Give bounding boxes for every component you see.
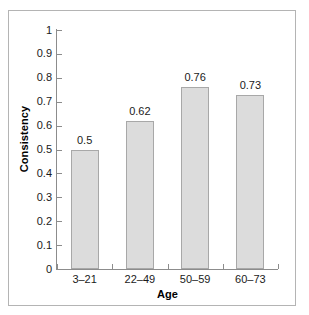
y-axis-tick-label: 0.2 — [6, 216, 52, 227]
y-axis-tick-label: 0.8 — [6, 72, 52, 83]
x-axis-category-label: 22–49 — [125, 273, 156, 285]
x-axis-category-label: 50–59 — [180, 273, 211, 285]
x-axis-tick — [278, 264, 279, 269]
bar[interactable] — [181, 87, 209, 269]
bar-value-label: 0.73 — [240, 80, 261, 91]
bar[interactable] — [236, 95, 264, 269]
plot-area: 0.50.620.760.73 — [57, 30, 277, 269]
y-axis-tick-label: 1 — [6, 25, 52, 36]
bar-value-label: 0.62 — [129, 106, 150, 117]
x-axis-tick — [168, 264, 169, 269]
figure: 00.10.20.30.40.50.60.70.80.91 Consistenc… — [0, 0, 309, 315]
bar-group: 0.76 — [181, 30, 209, 269]
x-axis-category-label: 60–73 — [235, 273, 266, 285]
bar-group: 0.5 — [71, 30, 99, 269]
bar[interactable] — [126, 121, 154, 269]
bar[interactable] — [71, 150, 99, 270]
bar-group: 0.62 — [126, 30, 154, 269]
y-axis-tick-label: 0.1 — [6, 240, 52, 251]
bar-value-label: 0.76 — [184, 72, 205, 83]
x-axis-tick — [112, 264, 113, 269]
x-axis-title: Age — [57, 288, 278, 300]
x-axis-category-label: 3–21 — [72, 273, 96, 285]
y-axis-tick-label: 0.9 — [6, 48, 52, 59]
y-axis-tick-label: 0 — [6, 264, 52, 275]
y-axis-tick — [57, 269, 62, 270]
bar-group: 0.73 — [236, 30, 264, 269]
x-axis-tick — [223, 264, 224, 269]
y-axis-title: Consistency — [18, 84, 30, 194]
bar-value-label: 0.5 — [77, 135, 92, 146]
x-axis-line — [56, 269, 278, 270]
x-axis-tick — [57, 264, 58, 269]
